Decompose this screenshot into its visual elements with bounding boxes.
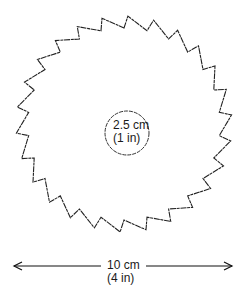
dimension-label-in: (4 in) <box>107 272 140 285</box>
dimension-label: 10 cm (4 in) <box>107 259 140 285</box>
inner-circle-label: 2.5 cm (1 in) <box>113 119 149 145</box>
inner-circle-label-in: (1 in) <box>113 132 149 145</box>
